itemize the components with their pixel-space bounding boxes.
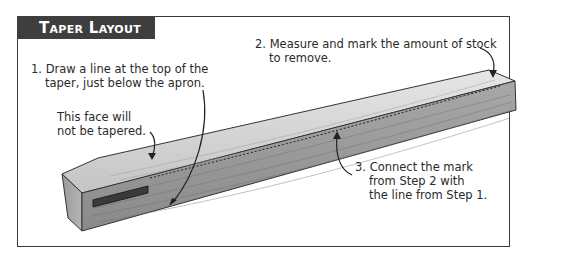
step1-callout: 1. Draw a line at the top of the taper, … <box>31 62 208 90</box>
step2-callout: 2. Measure and mark the amount of stock … <box>255 37 497 65</box>
face-note-callout: This face will not be tapered. <box>57 110 146 138</box>
step3-callout: 3. Connect the mark from Step 2 with the… <box>355 160 487 202</box>
